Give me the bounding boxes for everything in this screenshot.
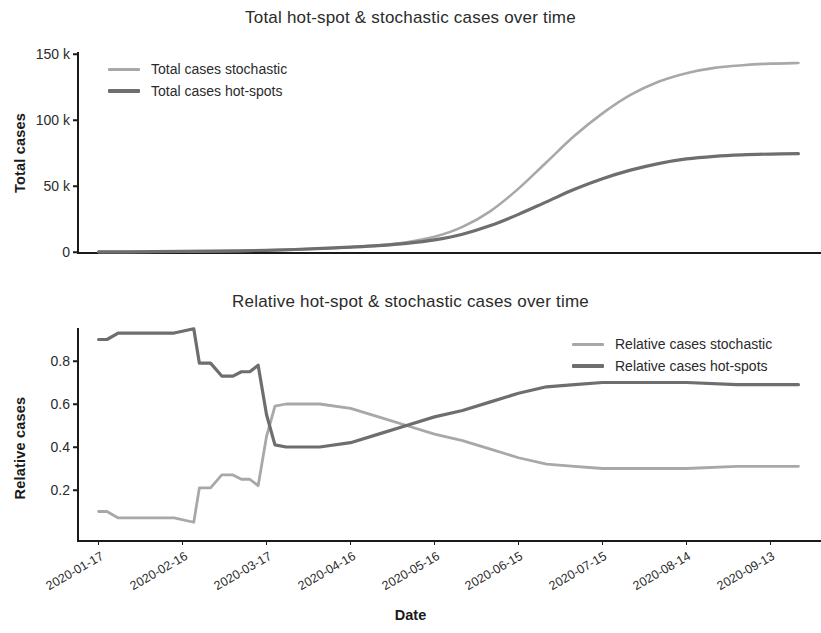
x-axis-label-date: Date (0, 607, 821, 623)
chart-relative-cases: Relative hot-spot & stochastic cases ove… (0, 285, 821, 633)
line-relative-stochastic (99, 404, 799, 522)
xtick-mark-0 (98, 541, 100, 545)
chart-total-cases: Total hot-spot & stochastic cases over t… (0, 0, 821, 285)
xtick-mark-5 (518, 541, 520, 545)
plot-lines-bottom-chart (0, 285, 821, 633)
xtick-mark-4 (434, 541, 436, 545)
xtick-mark-8 (770, 541, 772, 545)
xtick-mark-3 (350, 541, 352, 545)
xtick-mark-2 (266, 541, 268, 545)
line-total-hotspots (99, 154, 799, 252)
line-relative-hotspots (99, 329, 799, 447)
plot-lines-top-chart (0, 0, 821, 285)
xtick-mark-6 (602, 541, 604, 545)
figure-canvas: Total hot-spot & stochastic cases over t… (0, 0, 821, 633)
xtick-mark-1 (182, 541, 184, 545)
xtick-mark-7 (686, 541, 688, 545)
